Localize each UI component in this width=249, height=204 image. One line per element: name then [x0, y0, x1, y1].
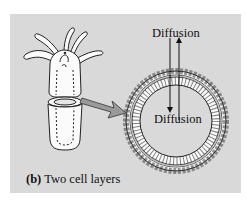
caption-text: Two cell layers: [41, 172, 120, 186]
figure-caption: (b) Two cell layers: [26, 172, 120, 187]
diffusion-label-outward: Diffusion: [152, 26, 200, 41]
caption-letter: (b): [26, 172, 41, 186]
diffusion-label-inward: Diffusion: [154, 112, 202, 127]
hydra-icon: [24, 28, 103, 150]
pointer-arrow-icon: [80, 98, 126, 118]
